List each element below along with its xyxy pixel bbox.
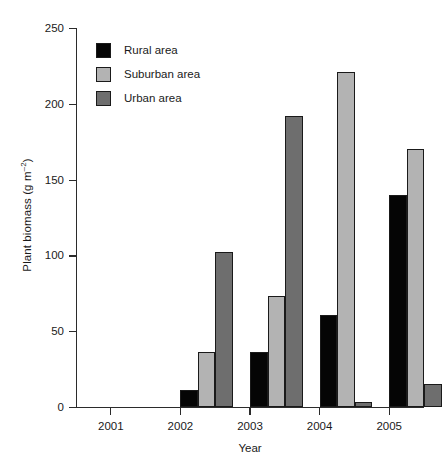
x-tick-mark — [319, 408, 320, 415]
bar — [355, 402, 373, 407]
y-tick-mark — [69, 28, 76, 29]
bar — [337, 72, 355, 407]
y-tick-label: 200 — [45, 98, 64, 110]
x-tick-label: 2001 — [98, 420, 124, 432]
bar — [389, 195, 407, 407]
y-tick-label: 50 — [51, 325, 64, 337]
y-tick-label: 150 — [45, 174, 64, 186]
x-tick-label: 2005 — [376, 420, 402, 432]
legend-item: Rural area — [96, 38, 266, 62]
bar — [320, 315, 338, 407]
y-tick-mark — [69, 180, 76, 181]
bar — [407, 149, 425, 407]
y-tick-mark — [69, 255, 76, 256]
bar-chart: Plant biomass (g m–2) 050100150200250 20… — [0, 0, 447, 470]
legend-swatch — [96, 67, 111, 82]
x-tick-label: 2004 — [307, 420, 333, 432]
legend-label: Rural area — [124, 44, 178, 56]
y-tick-label: 100 — [45, 249, 64, 261]
bar — [215, 252, 233, 407]
legend-label: Suburban area — [124, 68, 200, 80]
y-tick-label: 250 — [45, 22, 64, 34]
bar — [180, 390, 198, 407]
y-tick-label: 0 — [58, 401, 64, 413]
legend-swatch — [96, 43, 111, 58]
legend-swatch — [96, 91, 111, 106]
bar — [285, 116, 303, 407]
chart-legend: Rural areaSuburban areaUrban area — [96, 38, 266, 110]
x-tick-label: 2002 — [168, 420, 194, 432]
y-tick-mark — [69, 331, 76, 332]
x-axis-title: Year — [76, 442, 424, 454]
x-tick-mark — [110, 408, 111, 415]
y-axis-title-base: Plant biomass (g m — [21, 171, 33, 271]
bar — [268, 296, 286, 407]
x-tick-mark — [180, 408, 181, 415]
legend-label: Urban area — [124, 92, 182, 104]
y-tick-mark — [69, 104, 76, 105]
y-axis-title-exponent: –2 — [19, 162, 28, 171]
bar — [424, 384, 442, 407]
bar — [250, 352, 268, 407]
y-axis-title: Plant biomass (g m–2) — [14, 25, 40, 405]
x-tick-mark — [389, 408, 390, 415]
legend-item: Suburban area — [96, 62, 266, 86]
bar — [198, 352, 216, 407]
x-tick-mark — [249, 408, 250, 415]
y-axis-title-tail: ) — [21, 158, 33, 162]
legend-item: Urban area — [96, 86, 266, 110]
x-tick-label: 2003 — [237, 420, 263, 432]
y-tick-mark — [69, 407, 76, 408]
